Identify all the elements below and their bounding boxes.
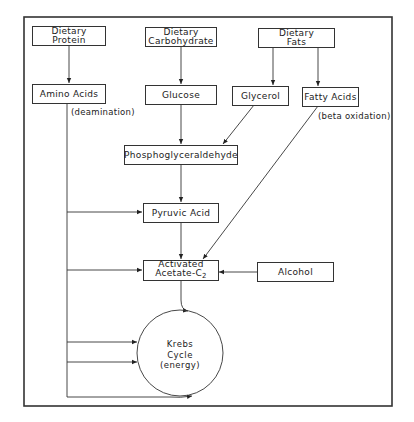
node-dietary-fats: Dietary Fats (258, 28, 335, 48)
node-alcohol-label: Alcohol (278, 268, 313, 277)
node-pyruvic-acid: Pyruvic Acid (143, 203, 219, 223)
node-glycerol-label: Glycerol (241, 92, 280, 101)
annotation-beta-oxidation: (beta oxidation) (318, 111, 391, 121)
node-phosphoglyceraldehyde-label: Phosphoglyceraldehyde (124, 151, 238, 160)
annotation-deamination: (deamination) (71, 107, 135, 117)
krebs-line3: (energy) (150, 360, 210, 371)
node-dietary-protein: Dietary Protein (32, 26, 106, 46)
krebs-line1: Krebs (150, 339, 210, 350)
node-activated-acetate: Activated Acetate-C2 (143, 260, 219, 281)
node-pyruvic-acid-label: Pyruvic Acid (152, 209, 211, 218)
acetate-text: Acetate-C (155, 268, 202, 278)
node-glucose: Glucose (145, 85, 217, 105)
node-activated-acetate-line2: Acetate-C2 (155, 269, 207, 281)
node-phosphoglyceraldehyde: Phosphoglyceraldehyde (124, 145, 238, 165)
node-dietary-protein-line2: Protein (52, 36, 86, 45)
node-dietary-carbohydrate: Dietary Carbohydrate (145, 27, 217, 47)
node-alcohol: Alcohol (257, 262, 334, 282)
node-glycerol: Glycerol (232, 86, 289, 106)
acetate-subscript: 2 (202, 272, 207, 280)
krebs-line2: Cycle (150, 350, 210, 361)
node-fatty-acids-label: Fatty Acids (304, 93, 356, 102)
node-krebs-cycle: Krebs Cycle (energy) (150, 339, 210, 371)
node-glucose-label: Glucose (162, 91, 200, 100)
node-amino-acids-label: Amino Acids (40, 90, 99, 99)
node-amino-acids: Amino Acids (32, 84, 106, 104)
node-dietary-carbohydrate-line2: Carbohydrate (148, 37, 213, 46)
node-fatty-acids: Fatty Acids (302, 87, 359, 107)
node-dietary-fats-line2: Fats (287, 38, 306, 47)
